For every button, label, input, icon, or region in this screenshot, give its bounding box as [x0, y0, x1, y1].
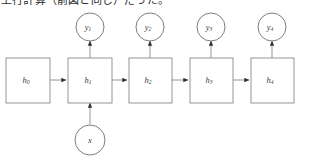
output-node-y4[interactable]: y4	[258, 13, 286, 41]
output-node-y1[interactable]: y1	[76, 13, 104, 41]
hidden-node-h4[interactable]: h4	[251, 58, 294, 103]
hidden-node-h3[interactable]: h3	[190, 58, 233, 103]
output-node-y2[interactable]: y2	[136, 13, 164, 41]
input-node-x[interactable]: x	[75, 125, 105, 155]
edge-group-vertical	[90, 41, 272, 58]
figure-canvas: 上行計算（前図と同じ）だった。 y1	[0, 0, 312, 160]
output-node-y3[interactable]: y3	[197, 13, 225, 41]
input-label-x: x	[87, 135, 92, 145]
hidden-node-h2[interactable]: h2	[129, 58, 172, 103]
hidden-node-h0[interactable]: h0	[6, 58, 50, 103]
hidden-node-h1[interactable]: h1	[68, 58, 112, 103]
rnn-unrolled-diagram: y1 y2 y3 y4 h0	[0, 0, 312, 160]
